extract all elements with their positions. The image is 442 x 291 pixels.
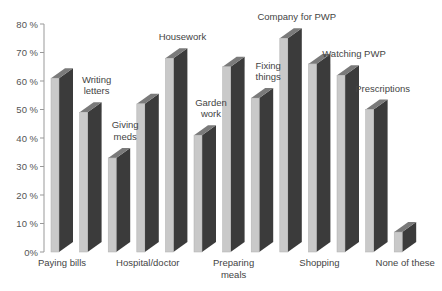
bar-front — [80, 112, 88, 252]
bar-side — [259, 88, 273, 252]
bar-side — [288, 28, 302, 252]
category-label: meals — [221, 269, 247, 280]
bar-side — [316, 54, 330, 252]
bars — [51, 28, 416, 252]
bar-side — [88, 102, 102, 252]
bar-front — [108, 158, 116, 252]
bar — [251, 88, 273, 252]
y-tick-label: 70 % — [16, 47, 38, 58]
bar-side — [231, 57, 245, 252]
bar — [366, 100, 388, 253]
category-label: Fixing — [256, 60, 281, 71]
y-tick-label: 60 % — [16, 76, 38, 87]
y-tick-label: 10 % — [16, 218, 38, 229]
y-tick-label: 50 % — [16, 104, 38, 115]
y-tick-label: 20 % — [16, 190, 38, 201]
category-label: Shopping — [299, 257, 339, 268]
y-tick-label: 80 % — [16, 19, 38, 30]
bar-front — [280, 38, 288, 252]
category-label: things — [256, 71, 282, 82]
y-tick-label: 30 % — [16, 161, 38, 172]
category-label: Hospital/doctor — [116, 257, 179, 268]
category-label: Garden — [195, 97, 227, 108]
category-label: letters — [84, 85, 110, 96]
bar-side — [173, 48, 187, 252]
bar-chart: 0%10 %20 %30 %40 %50 %60 %70 %80 % Payin… — [0, 0, 442, 291]
bar-front — [337, 75, 345, 252]
category-label: Giving — [112, 119, 139, 130]
bar-side — [59, 68, 73, 252]
category-label: work — [200, 108, 221, 119]
bar — [280, 28, 302, 252]
bar-side — [116, 148, 130, 252]
category-label: Preparing — [213, 257, 254, 268]
bar — [194, 125, 216, 252]
category-label: None of these — [376, 257, 435, 268]
category-label: Paying bills — [38, 257, 86, 268]
category-label: Watching PWP — [322, 48, 386, 59]
bar-front — [51, 78, 59, 252]
bar — [308, 54, 330, 252]
y-tick-label: 0% — [24, 247, 38, 258]
bar — [165, 48, 187, 252]
bar-front — [251, 98, 259, 252]
bar — [223, 57, 245, 252]
bar-side — [145, 94, 159, 252]
y-tick-label: 40 % — [16, 133, 38, 144]
bar — [137, 94, 159, 252]
bar — [80, 102, 102, 252]
category-label: Company for PWP — [257, 11, 336, 22]
bar-front — [366, 110, 374, 253]
bar-side — [374, 100, 388, 253]
bar-front — [394, 232, 402, 252]
category-label: Prescriptions — [355, 83, 410, 94]
y-axis: 0%10 %20 %30 %40 %50 %60 %70 %80 % — [16, 19, 44, 258]
bar-front — [308, 64, 316, 252]
category-label: Writing — [82, 74, 111, 85]
bar-front — [223, 67, 231, 252]
bar — [108, 148, 130, 252]
bar-front — [194, 135, 202, 252]
category-label: Housework — [159, 31, 207, 42]
bar — [394, 222, 416, 252]
bar — [51, 68, 73, 252]
category-label: meds — [114, 131, 137, 142]
bar-front — [165, 58, 173, 252]
bar-side — [202, 125, 216, 252]
